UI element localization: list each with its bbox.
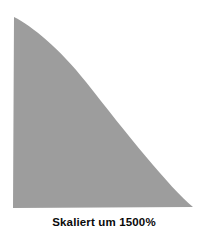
scaled-shape-graphic — [0, 0, 208, 212]
figure-caption: Skaliert um 1500% — [0, 215, 208, 229]
quarter-curve-wedge-path — [13, 17, 193, 208]
shape-canvas — [0, 0, 208, 212]
figure-container: Skaliert um 1500% — [0, 0, 208, 235]
